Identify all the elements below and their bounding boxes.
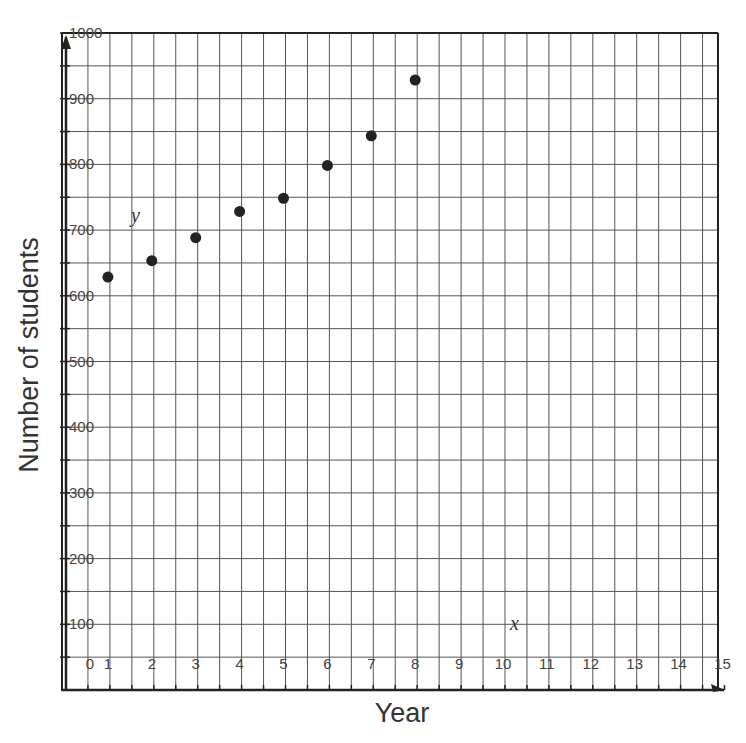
x-axis-title: Year bbox=[375, 698, 430, 728]
data-point bbox=[190, 232, 201, 243]
data-point bbox=[410, 74, 421, 85]
y-tick-label: 900 bbox=[69, 90, 94, 107]
y-tick-label: 800 bbox=[69, 155, 94, 172]
data-point bbox=[146, 255, 157, 266]
y-tick-label: 300 bbox=[69, 484, 94, 501]
x-tick-label: 8 bbox=[411, 655, 419, 672]
x-tick-label: 7 bbox=[367, 655, 375, 672]
x-tick-label: 13 bbox=[626, 655, 643, 672]
grid bbox=[62, 33, 718, 690]
y-tick-label: 1000 bbox=[69, 24, 102, 41]
y-axis-title: Number of students bbox=[14, 237, 44, 473]
x-tick-label: 11 bbox=[539, 655, 555, 672]
x-tick-label: 4 bbox=[235, 655, 243, 672]
data-point bbox=[102, 272, 113, 283]
y-tick-label: 100 bbox=[69, 615, 94, 632]
data-point bbox=[278, 193, 289, 204]
x-tick-label: 6 bbox=[323, 655, 331, 672]
x-tick-label: 0 bbox=[86, 655, 94, 672]
x-tick-label: 3 bbox=[192, 655, 200, 672]
y-tick-label: 200 bbox=[69, 550, 94, 567]
y-variable-label: y bbox=[129, 204, 140, 227]
x-tick-label: 2 bbox=[148, 655, 156, 672]
x-tick-label: 10 bbox=[495, 655, 512, 672]
y-tick-label: 600 bbox=[69, 287, 94, 304]
x-axis-ticks: 0123456789101112131415 bbox=[86, 655, 731, 690]
x-tick-label: 14 bbox=[670, 655, 687, 672]
scatter-chart: 1002003004005006007008009001000 01234567… bbox=[0, 0, 746, 743]
x-tick-label: 5 bbox=[279, 655, 287, 672]
data-point bbox=[322, 160, 333, 171]
data-point bbox=[366, 130, 377, 141]
x-tick-label: 15 bbox=[714, 655, 731, 672]
data-point bbox=[234, 206, 245, 217]
x-tick-label: 1 bbox=[104, 655, 112, 672]
y-tick-label: 400 bbox=[69, 418, 94, 435]
y-tick-label: 500 bbox=[69, 353, 94, 370]
x-tick-label: 12 bbox=[582, 655, 599, 672]
x-tick-label: 9 bbox=[455, 655, 463, 672]
y-tick-label: 700 bbox=[69, 221, 94, 238]
x-variable-label: x bbox=[509, 612, 519, 634]
